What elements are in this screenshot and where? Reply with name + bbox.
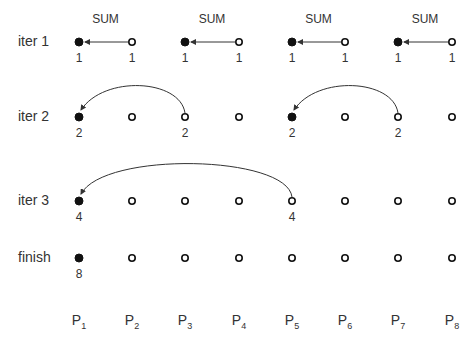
idle-node bbox=[342, 39, 348, 45]
node-value: 2 bbox=[182, 126, 189, 140]
node-value: 1 bbox=[449, 51, 456, 65]
sum-label: SUM bbox=[199, 12, 226, 26]
active-node bbox=[181, 38, 189, 46]
active-node bbox=[75, 197, 83, 205]
idle-node bbox=[236, 255, 242, 261]
processor-label: P6 bbox=[338, 312, 352, 331]
idle-node bbox=[449, 198, 455, 204]
node-value: 8 bbox=[76, 267, 83, 281]
idle-node bbox=[289, 255, 295, 261]
active-node bbox=[394, 38, 402, 46]
idle-node bbox=[129, 198, 135, 204]
active-node bbox=[288, 38, 296, 46]
node-value: 1 bbox=[129, 51, 136, 65]
idle-node bbox=[342, 255, 348, 261]
node-value: 1 bbox=[395, 51, 402, 65]
idle-node bbox=[449, 114, 455, 120]
node-value: 1 bbox=[76, 51, 83, 65]
node-value: 4 bbox=[76, 210, 83, 224]
idle-node bbox=[395, 198, 401, 204]
idle-node bbox=[449, 39, 455, 45]
transfer-arrow bbox=[294, 86, 398, 113]
processor-label: P5 bbox=[285, 312, 299, 331]
idle-node bbox=[182, 114, 188, 120]
row-label: iter 2 bbox=[18, 108, 49, 124]
processor-label: P3 bbox=[178, 312, 192, 331]
row-label: finish bbox=[18, 249, 51, 265]
idle-node bbox=[395, 255, 401, 261]
transfer-arrow bbox=[81, 164, 292, 197]
idle-node bbox=[289, 198, 295, 204]
node-value: 2 bbox=[395, 126, 402, 140]
processor-label: P7 bbox=[391, 312, 405, 331]
processor-label: P1 bbox=[72, 312, 86, 331]
idle-node bbox=[129, 114, 135, 120]
active-node bbox=[75, 38, 83, 46]
idle-node bbox=[236, 198, 242, 204]
idle-node bbox=[129, 255, 135, 261]
nodes bbox=[75, 38, 455, 262]
active-node bbox=[75, 113, 83, 121]
node-value: 1 bbox=[182, 51, 189, 65]
idle-node bbox=[236, 114, 242, 120]
sum-label: SUM bbox=[305, 12, 332, 26]
idle-node bbox=[395, 114, 401, 120]
idle-node bbox=[342, 198, 348, 204]
edges bbox=[81, 42, 448, 197]
idle-node bbox=[182, 198, 188, 204]
transfer-arrow bbox=[81, 86, 185, 113]
node-value: 4 bbox=[289, 210, 296, 224]
node-value: 1 bbox=[236, 51, 243, 65]
idle-node bbox=[182, 255, 188, 261]
idle-node bbox=[129, 39, 135, 45]
processor-label: P4 bbox=[232, 312, 246, 331]
idle-node bbox=[342, 114, 348, 120]
idle-node bbox=[449, 255, 455, 261]
node-value: 1 bbox=[342, 51, 349, 65]
row-label: iter 1 bbox=[18, 33, 49, 49]
processor-label: P8 bbox=[445, 312, 459, 331]
sum-label: SUM bbox=[412, 12, 439, 26]
node-value: 2 bbox=[289, 126, 296, 140]
active-node bbox=[75, 254, 83, 262]
node-value: 1 bbox=[289, 51, 296, 65]
processor-label: P2 bbox=[125, 312, 139, 331]
node-value: 2 bbox=[76, 126, 83, 140]
active-node bbox=[288, 113, 296, 121]
sum-label: SUM bbox=[92, 12, 119, 26]
idle-node bbox=[236, 39, 242, 45]
row-label: iter 3 bbox=[18, 192, 49, 208]
